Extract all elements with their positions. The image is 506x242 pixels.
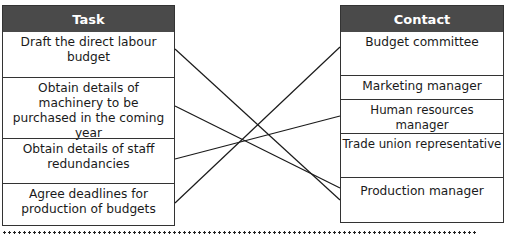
contact-row-production-manager: Production manager — [341, 177, 503, 224]
task-row-staff-redundancies: Obtain details of staff redundancies — [3, 138, 174, 183]
line-draft-to-production — [175, 49, 340, 200]
line-deadlines-to-budget-committee — [175, 47, 340, 203]
task-row-draft-labour-budget: Draft the direct labour budget — [3, 32, 174, 77]
contact-row-hr-manager: Human resources manager — [341, 99, 503, 133]
contact-header: Contact — [341, 6, 503, 32]
task-table: Task Draft the direct labour budget Obta… — [2, 5, 175, 226]
contact-row-budget-committee: Budget committee — [341, 32, 503, 75]
task-row-machinery-details: Obtain details of machinery to be purcha… — [3, 77, 174, 138]
dotted-separator — [2, 231, 476, 234]
task-row-agree-deadlines: Agree deadlines for production of budget… — [3, 183, 174, 227]
line-redundancies-to-hr — [175, 116, 340, 159]
task-header: Task — [3, 6, 174, 32]
contact-row-trade-union-rep: Trade union representative — [341, 133, 503, 177]
contact-table: Contact Budget committee Marketing manag… — [340, 5, 504, 223]
line-machinery-to-production — [175, 106, 340, 188]
contact-row-marketing-manager: Marketing manager — [341, 75, 503, 99]
